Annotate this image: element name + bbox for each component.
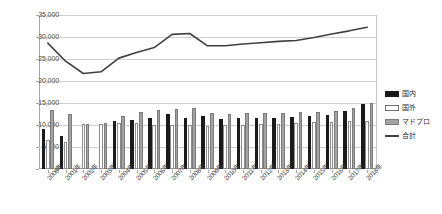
legend-label-madopro: マドプロ — [402, 118, 430, 126]
bar-国内 — [326, 115, 330, 169]
bar-group — [343, 15, 355, 169]
plot-frame-right — [376, 15, 377, 169]
bar-group — [237, 15, 249, 169]
bar-マドプロ — [104, 123, 108, 169]
bar-国外 — [241, 125, 245, 169]
bar-group — [148, 15, 160, 169]
bar-国外 — [206, 126, 210, 169]
bar-マドプロ — [139, 112, 143, 169]
bar-マドプロ — [316, 112, 320, 169]
bar-国内 — [343, 111, 347, 169]
bar-group — [77, 15, 89, 169]
bar-国外 — [152, 125, 156, 169]
bar-group — [272, 15, 284, 169]
bar-マドプロ — [281, 113, 285, 169]
bar-マドプロ — [210, 113, 214, 169]
bar-国外 — [312, 122, 316, 169]
legend-item-kokugai[interactable]: 国外 — [385, 102, 441, 114]
bar-series-layer — [39, 15, 376, 169]
bar-国外 — [348, 121, 352, 169]
legend-item-kokunai[interactable]: 国内 — [385, 88, 441, 100]
bar-group — [201, 15, 213, 169]
bar-国外 — [330, 122, 334, 169]
legend-swatch-goukei-icon — [385, 133, 399, 139]
bar-group — [113, 15, 125, 169]
legend-item-madopro[interactable]: マドプロ — [385, 116, 441, 128]
bar-国外 — [135, 123, 139, 169]
legend-label-goukei: 合計 — [402, 132, 416, 140]
bar-マドプロ — [192, 108, 196, 169]
bar-国内 — [237, 118, 241, 169]
bar-マドプロ — [228, 114, 232, 169]
bar-group — [166, 15, 178, 169]
bar-国外 — [46, 140, 50, 169]
bar-国外 — [259, 124, 263, 169]
bar-group — [326, 15, 338, 169]
legend-item-goukei[interactable]: 合計 — [385, 130, 441, 142]
bar-国外 — [117, 123, 121, 169]
bar-国外 — [64, 142, 68, 169]
legend-label-kokugai: 国外 — [402, 104, 416, 112]
chart-container: 05,00010,00015,00020,00025,00030,00035,0… — [0, 0, 442, 214]
bar-国外 — [365, 121, 369, 169]
bar-group — [42, 15, 54, 169]
chart-legend: 国内 国外 マドプロ 合計 — [385, 88, 441, 144]
bar-マドプロ — [334, 111, 338, 169]
bar-国外 — [277, 124, 281, 169]
bar-国外 — [294, 123, 298, 169]
bar-国内 — [255, 118, 259, 169]
bar-group — [60, 15, 72, 169]
bar-マドプロ — [86, 124, 90, 169]
bar-group — [219, 15, 231, 169]
legend-swatch-kokugai-icon — [385, 105, 399, 111]
bar-マドプロ — [245, 113, 249, 169]
bar-マドプロ — [263, 113, 267, 169]
bar-国内 — [166, 114, 170, 169]
bar-マドプロ — [175, 109, 179, 169]
bar-group — [95, 15, 107, 169]
bar-マドプロ — [352, 108, 356, 169]
x-axis: 2000年2001年2002年2003年2004年2005年2006年2007年… — [39, 170, 376, 214]
bar-マドプロ — [50, 110, 54, 169]
legend-swatch-madopro-icon — [385, 119, 399, 125]
bar-group — [184, 15, 196, 169]
bar-group — [130, 15, 142, 169]
legend-swatch-kokunai-icon — [385, 91, 399, 97]
bar-国外 — [170, 125, 174, 169]
bar-マドプロ — [121, 116, 125, 169]
bar-国内 — [290, 117, 294, 169]
bar-国外 — [82, 124, 86, 169]
bar-国外 — [99, 124, 103, 169]
bar-group — [290, 15, 302, 169]
bar-group — [361, 15, 373, 169]
bar-国外 — [188, 125, 192, 169]
bar-マドプロ — [157, 110, 161, 169]
bar-マドプロ — [68, 114, 72, 169]
bar-group — [255, 15, 267, 169]
bar-マドプロ — [299, 112, 303, 169]
bar-国内 — [361, 104, 365, 169]
bar-国内 — [308, 116, 312, 169]
bar-マドプロ — [370, 103, 374, 169]
bar-group — [308, 15, 320, 169]
legend-label-kokunai: 国内 — [402, 90, 416, 98]
bar-国内 — [42, 129, 46, 169]
bar-国外 — [223, 125, 227, 169]
